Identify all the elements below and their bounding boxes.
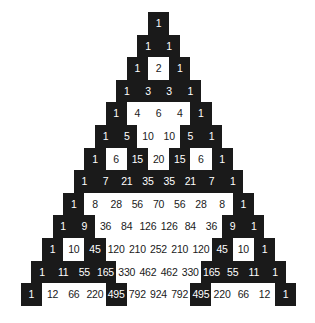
- pascal-cell-11-3: 165: [95, 261, 116, 284]
- pascal-cell-9-4: 126: [137, 215, 158, 238]
- pascal-cell-12-2: 66: [63, 283, 84, 306]
- pascal-cell-12-9: 220: [211, 283, 232, 306]
- pascal-cell-12-0: 1: [21, 283, 42, 306]
- pascal-cell-11-7: 330: [180, 261, 201, 284]
- pascal-cell-12-3: 220: [84, 283, 105, 306]
- pascal-cell-10-8: 45: [212, 238, 233, 261]
- pascal-row-2: 121: [127, 57, 191, 80]
- pascal-cell-10-10: 1: [254, 238, 275, 261]
- pascal-cell-12-1: 12: [42, 283, 63, 306]
- pascal-cell-3-0: 1: [116, 80, 137, 103]
- pascal-cell-4-0: 1: [106, 102, 127, 125]
- pascal-cell-11-5: 462: [137, 261, 158, 284]
- pascal-cell-6-5: 6: [190, 148, 211, 171]
- pascal-cell-11-6: 462: [159, 261, 180, 284]
- pascal-cell-1-1: 1: [159, 35, 180, 58]
- pascal-cell-12-12: 1: [275, 283, 296, 306]
- pascal-cell-11-4: 330: [116, 261, 137, 284]
- pascal-row-3: 1331: [116, 80, 201, 103]
- pascal-cell-6-3: 20: [148, 148, 169, 171]
- pascal-cell-8-6: 28: [190, 193, 211, 216]
- pascal-cell-11-1: 11: [53, 261, 74, 284]
- pascal-cell-12-10: 66: [233, 283, 254, 306]
- pascal-row-10: 1104512021025221012045101: [42, 238, 275, 261]
- pascal-cell-3-1: 3: [137, 80, 158, 103]
- pascal-row-1: 11: [137, 35, 179, 58]
- pascal-cell-9-7: 36: [201, 215, 222, 238]
- pascal-cell-10-9: 10: [233, 238, 254, 261]
- pascal-cell-5-4: 5: [180, 125, 201, 148]
- pascal-cell-9-5: 126: [159, 215, 180, 238]
- pascal-cell-3-2: 3: [159, 80, 180, 103]
- pascal-row-9: 193684126126843691: [53, 215, 265, 238]
- pascal-cell-11-10: 11: [243, 261, 264, 284]
- pascal-cell-5-5: 1: [201, 125, 222, 148]
- pascals-triangle-figure: 1111211331146411510105116152015611721353…: [0, 0, 315, 323]
- pascal-cell-5-1: 5: [116, 125, 137, 148]
- pascal-cell-6-4: 15: [169, 148, 190, 171]
- pascal-cell-11-8: 165: [201, 261, 222, 284]
- pascal-cell-9-9: 1: [243, 215, 264, 238]
- pascal-cell-6-1: 6: [106, 148, 127, 171]
- pascal-cell-4-3: 4: [169, 102, 190, 125]
- pascal-cell-7-7: 1: [222, 170, 243, 193]
- pascal-cell-8-4: 70: [148, 193, 169, 216]
- pascal-cell-11-0: 1: [31, 261, 52, 284]
- pascal-cell-10-6: 210: [169, 238, 190, 261]
- pascal-cell-5-3: 10: [159, 125, 180, 148]
- pascal-row-4: 14641: [106, 102, 212, 125]
- pascal-cell-9-8: 9: [222, 215, 243, 238]
- pascal-cell-7-5: 21: [180, 170, 201, 193]
- pascal-cell-0-0: 1: [148, 12, 169, 35]
- pascal-cell-12-8: 495: [190, 283, 211, 306]
- pascal-cell-12-11: 12: [254, 283, 275, 306]
- pascal-cell-11-2: 55: [74, 261, 95, 284]
- pascal-cell-8-0: 1: [63, 193, 84, 216]
- pascal-cell-9-6: 84: [180, 215, 201, 238]
- pascal-cell-8-8: 1: [233, 193, 254, 216]
- pascal-cell-11-9: 55: [222, 261, 243, 284]
- pascal-cell-10-4: 210: [127, 238, 148, 261]
- pascal-row-0: 1: [148, 12, 169, 35]
- pascal-cell-7-1: 7: [95, 170, 116, 193]
- pascal-cell-7-0: 1: [74, 170, 95, 193]
- pascal-cell-7-3: 35: [137, 170, 158, 193]
- pascal-cell-8-1: 8: [84, 193, 105, 216]
- pascal-cell-8-2: 28: [106, 193, 127, 216]
- pascal-cell-12-4: 495: [106, 283, 127, 306]
- pascal-row-5: 15101051: [95, 125, 222, 148]
- pascal-cell-5-0: 1: [95, 125, 116, 148]
- pascal-cell-4-4: 1: [190, 102, 211, 125]
- pascal-cell-7-2: 21: [116, 170, 137, 193]
- pascal-cell-8-3: 56: [127, 193, 148, 216]
- pascal-cell-12-6: 924: [148, 283, 169, 306]
- pascal-cell-2-1: 2: [148, 57, 169, 80]
- pascal-cell-2-0: 1: [127, 57, 148, 80]
- pascal-row-7: 172135352171: [74, 170, 244, 193]
- pascal-cell-6-6: 1: [212, 148, 233, 171]
- pascal-cell-10-1: 10: [63, 238, 84, 261]
- pascal-row-8: 18285670562881: [63, 193, 254, 216]
- pascal-cell-7-6: 7: [201, 170, 222, 193]
- pascal-cell-6-2: 15: [127, 148, 148, 171]
- pascal-cell-8-5: 56: [169, 193, 190, 216]
- pascal-row-12: 1126622049579292479249522066121: [21, 283, 297, 306]
- pascal-cell-10-0: 1: [42, 238, 63, 261]
- pascal-cell-11-11: 1: [264, 261, 285, 284]
- pascal-cell-10-2: 45: [84, 238, 105, 261]
- pascal-cell-10-3: 120: [106, 238, 127, 261]
- pascal-cell-4-1: 4: [127, 102, 148, 125]
- pascal-cell-9-3: 84: [116, 215, 137, 238]
- pascal-cell-1-0: 1: [137, 35, 158, 58]
- pascal-cell-7-4: 35: [159, 170, 180, 193]
- pascal-cell-12-5: 792: [127, 283, 148, 306]
- pascal-cell-4-2: 6: [148, 102, 169, 125]
- pascal-cell-9-0: 1: [53, 215, 74, 238]
- pascal-row-11: 1115516533046246233016555111: [31, 261, 285, 284]
- pascal-cell-5-2: 10: [137, 125, 158, 148]
- pascal-row-6: 1615201561: [84, 148, 232, 171]
- pascal-cell-6-0: 1: [84, 148, 105, 171]
- pascal-cell-8-7: 8: [212, 193, 233, 216]
- pascal-cell-9-1: 9: [74, 215, 95, 238]
- pascal-cell-10-5: 252: [148, 238, 169, 261]
